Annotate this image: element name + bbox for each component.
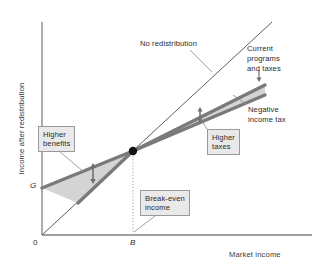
callout-higher-benefits: Higher benefits (38, 126, 75, 152)
leader-breakeven (134, 216, 155, 232)
figure-container: Income after redistribution Market incom… (0, 0, 317, 274)
annotation-negative-income-tax-line1: Negative (248, 105, 286, 115)
annotation-current-programs-line3: and taxes (247, 64, 281, 74)
leader-no-redistribution (190, 50, 212, 72)
callout-higher-taxes: Higher taxes (207, 129, 240, 155)
callout-higher-taxes-line2: taxes (212, 142, 235, 152)
annotation-negative-income-tax: Negative income tax (248, 105, 286, 125)
callout-higher-benefits-line1: Higher (43, 130, 70, 140)
annotation-no-redistribution: No redistribution (140, 39, 197, 49)
y-axis-title: Income after redistribution (17, 64, 26, 194)
annotation-current-programs-line2: programs (247, 54, 281, 64)
callout-breakeven-income-line2: income (145, 203, 185, 213)
annotation-current-programs-line1: Current (247, 44, 281, 54)
callout-higher-benefits-line2: benefits (43, 139, 70, 149)
tick-label-guarantee: G (30, 181, 36, 190)
tick-label-origin: 0 (33, 238, 37, 247)
annotation-current-programs: Current programs and taxes (247, 44, 281, 73)
leader-higher-benefits (60, 152, 84, 172)
tick-label-breakeven: B (130, 238, 135, 247)
x-axis-title: Market income (229, 250, 281, 259)
callout-breakeven-income: Break-even income (140, 190, 190, 216)
annotation-negative-income-tax-line2: income tax (248, 115, 286, 125)
callout-higher-taxes-line1: Higher (212, 133, 235, 143)
callout-breakeven-income-line1: Break-even (145, 194, 185, 204)
breakeven-point-marker (129, 147, 137, 155)
